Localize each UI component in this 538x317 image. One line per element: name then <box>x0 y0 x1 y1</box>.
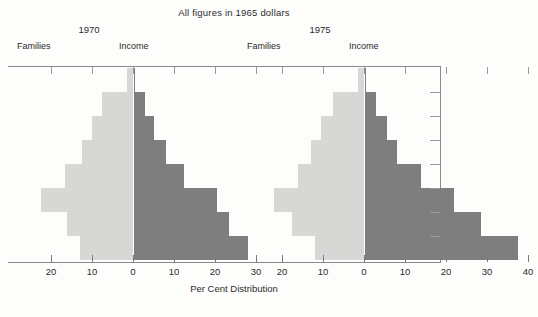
row-divider-tick <box>430 92 440 93</box>
x-axis-tick <box>174 255 175 262</box>
x-axis-tick-label: 10 <box>77 266 107 277</box>
bar-segment <box>67 212 133 236</box>
bar-segment <box>274 188 364 212</box>
x-axis-tick-label: 0 <box>349 266 379 277</box>
row-divider-tick <box>430 140 440 141</box>
x-axis-tick <box>215 255 216 262</box>
bar-segment <box>92 116 133 140</box>
x-axis-tick <box>528 255 529 262</box>
x-axis-tick-label: 0 <box>118 266 148 277</box>
x-axis-tick-top <box>323 67 324 74</box>
x-axis-tick-top <box>133 67 134 74</box>
bar-segment <box>364 212 481 236</box>
bar-segment <box>133 116 154 140</box>
bar-segment <box>321 116 364 140</box>
x-axis-tick-label: 40 <box>513 266 538 277</box>
x-axis-tick <box>51 255 52 262</box>
bar-segment <box>298 164 364 188</box>
bar-segment <box>333 92 364 116</box>
x-axis-tick-label: 20 <box>431 266 461 277</box>
bar-segment <box>292 212 364 236</box>
zero-axis-rule <box>133 68 134 260</box>
bar-segment <box>364 236 518 260</box>
bar-segment <box>364 116 387 140</box>
x-axis-tick-label: 20 <box>267 266 297 277</box>
row-divider-tick <box>430 188 440 189</box>
x-axis-tick-top <box>446 67 447 74</box>
column-header-income-1975: Income <box>349 41 379 51</box>
x-axis-tick-top <box>364 67 365 74</box>
x-axis-tick-top <box>256 67 257 74</box>
bar-segment <box>133 140 166 164</box>
x-axis-tick <box>323 255 324 262</box>
x-axis-tick-label: 10 <box>159 266 189 277</box>
x-axis-tick-top <box>405 67 406 74</box>
x-axis-tick-top <box>174 67 175 74</box>
bar-segment <box>364 92 376 116</box>
x-axis-tick-label: 20 <box>200 266 230 277</box>
plot-area <box>8 66 441 260</box>
panel-year-1975: 1975 <box>290 24 350 35</box>
x-axis-tick-top <box>528 67 529 74</box>
column-header-families-1970: Families <box>17 41 51 51</box>
panel-year-1970: 1970 <box>59 24 119 35</box>
chart-supertitle: All figures in 1965 dollars <box>0 7 468 18</box>
row-divider-tick <box>430 164 440 165</box>
bar-segment <box>80 236 133 260</box>
bar-segment <box>65 164 133 188</box>
x-axis-tick <box>405 255 406 262</box>
x-axis-tick <box>446 255 447 262</box>
x-axis-title: Per Cent Distribution <box>0 283 468 294</box>
x-axis-tick-label: 30 <box>472 266 502 277</box>
bar-segment <box>311 140 364 164</box>
bar-segment <box>133 92 145 116</box>
x-axis-tick <box>256 255 257 262</box>
x-axis-tick <box>92 255 93 262</box>
row-divider-tick <box>430 236 440 237</box>
x-axis-tick-top <box>51 67 52 74</box>
x-axis-tick-label: 10 <box>390 266 420 277</box>
x-axis-tick-top <box>215 67 216 74</box>
x-axis-tick-top <box>282 67 283 74</box>
bar-segment <box>133 188 217 212</box>
x-axis-tick <box>487 255 488 262</box>
bar-segment <box>41 188 133 212</box>
x-axis-tick-top <box>92 67 93 74</box>
bar-segment <box>133 236 248 260</box>
bar-segment <box>364 164 421 188</box>
row-divider-tick <box>430 116 440 117</box>
axis-line-bottom <box>8 262 441 263</box>
x-axis-tick <box>282 255 283 262</box>
bar-segment <box>364 140 397 164</box>
x-axis-tick <box>133 255 134 262</box>
bar-segment <box>133 212 229 236</box>
x-axis-tick-label: 20 <box>36 266 66 277</box>
bar-segment <box>133 164 184 188</box>
x-axis-tick-top <box>487 67 488 74</box>
bar-segment <box>364 188 454 212</box>
bar-segment <box>102 92 133 116</box>
x-axis-tick <box>364 255 365 262</box>
row-divider-tick <box>430 212 440 213</box>
zero-axis-rule <box>364 68 365 260</box>
bar-segment <box>82 140 133 164</box>
column-header-income-1970: Income <box>119 41 149 51</box>
x-axis-tick-label: 10 <box>308 266 338 277</box>
column-header-families-1975: Families <box>247 41 281 51</box>
